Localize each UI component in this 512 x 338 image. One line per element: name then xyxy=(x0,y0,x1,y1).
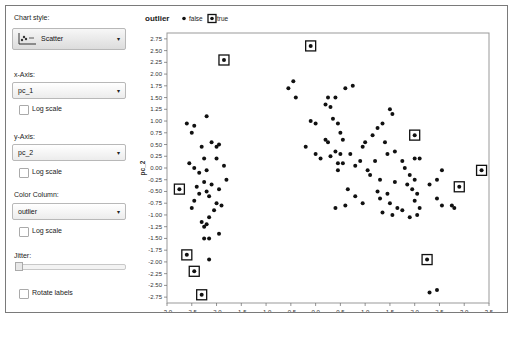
y-tick-label: 0.50 xyxy=(150,142,162,148)
data-point xyxy=(413,178,417,182)
y-axis-title: pc_2 xyxy=(139,160,147,175)
data-point xyxy=(371,133,375,137)
data-point xyxy=(435,288,439,292)
data-point xyxy=(400,208,404,212)
data-point xyxy=(210,182,214,186)
data-point xyxy=(393,150,397,154)
data-point xyxy=(207,194,211,198)
data-point xyxy=(413,157,417,161)
outlier-point xyxy=(177,187,181,191)
data-point xyxy=(435,178,439,182)
data-point xyxy=(333,150,337,154)
y-tick-label: -2.75 xyxy=(148,294,162,300)
data-point xyxy=(351,84,355,88)
data-point xyxy=(224,178,228,182)
y-tick-label: 0.25 xyxy=(150,153,162,159)
data-point xyxy=(217,232,221,236)
data-point xyxy=(205,114,209,118)
data-point xyxy=(408,215,412,219)
y-tick-label: -2.50 xyxy=(148,282,162,288)
data-point xyxy=(331,117,335,121)
data-point xyxy=(190,131,194,135)
data-point xyxy=(390,213,394,217)
outlier-point xyxy=(200,293,204,297)
data-point xyxy=(338,152,342,156)
x-tick-label: 2.0 xyxy=(411,309,420,312)
data-point xyxy=(192,124,196,128)
data-point xyxy=(361,145,365,149)
data-point xyxy=(343,86,347,90)
outlier-point xyxy=(413,133,417,137)
data-point xyxy=(219,204,223,208)
data-point xyxy=(319,157,323,161)
data-point xyxy=(324,103,328,107)
data-point xyxy=(385,152,389,156)
y-tick-label: -2.00 xyxy=(148,259,162,265)
data-point xyxy=(361,201,365,205)
y-tick-label: -0.50 xyxy=(148,188,162,194)
outlier-point xyxy=(309,44,313,48)
x-tick-label: 1.0 xyxy=(361,309,370,312)
data-point xyxy=(413,199,417,203)
x-tick-label: 2.5 xyxy=(435,309,444,312)
data-point xyxy=(403,166,407,170)
data-point xyxy=(363,140,367,144)
data-point xyxy=(202,236,206,240)
data-point xyxy=(380,211,384,215)
data-point xyxy=(192,199,196,203)
data-point xyxy=(314,152,318,156)
data-point xyxy=(388,201,392,205)
data-point xyxy=(195,185,199,189)
data-point xyxy=(341,138,345,142)
data-point xyxy=(366,168,370,172)
data-point xyxy=(376,126,380,130)
y-tick-label: -1.00 xyxy=(148,212,162,218)
y-tick-label: 1.50 xyxy=(150,95,162,101)
x-tick-label: -2.5 xyxy=(187,309,198,312)
data-point xyxy=(187,161,191,165)
y-tick-label: -2.25 xyxy=(148,271,162,277)
data-point xyxy=(309,119,313,123)
data-point xyxy=(207,258,211,262)
outlier-point xyxy=(185,253,189,257)
chart-view-frame: Chart style: Scatter ▾ x-Axis: pc_1 ▾ Lo… xyxy=(5,5,508,313)
data-point xyxy=(376,189,380,193)
data-point xyxy=(395,206,399,210)
data-point xyxy=(207,236,211,240)
data-point xyxy=(415,213,419,217)
data-point xyxy=(202,180,206,184)
data-point xyxy=(190,206,194,210)
data-point xyxy=(328,154,332,158)
y-tick-label: 0.75 xyxy=(150,130,162,136)
data-point xyxy=(415,192,419,196)
plot-area xyxy=(167,33,489,303)
y-tick-label: -1.25 xyxy=(148,224,162,230)
scatter-chart: outlierfalsetrue-3.0-2.5-2.0-1.5-1.0-0.5… xyxy=(6,6,507,312)
x-tick-label: -3.0 xyxy=(162,309,173,312)
x-tick-label: -0.5 xyxy=(286,309,297,312)
y-tick-label: -1.50 xyxy=(148,235,162,241)
data-point xyxy=(405,182,409,186)
legend-title: outlier xyxy=(145,14,169,23)
data-point xyxy=(358,159,362,163)
data-point xyxy=(408,173,412,177)
data-point xyxy=(400,159,404,163)
data-point xyxy=(192,166,196,170)
data-point xyxy=(440,204,444,208)
data-point xyxy=(452,206,456,210)
x-tick-label: 3.5 xyxy=(485,309,494,312)
data-point xyxy=(418,206,422,210)
data-point xyxy=(294,96,298,100)
data-point xyxy=(336,121,340,125)
data-point xyxy=(336,168,340,172)
data-point xyxy=(390,112,394,116)
data-point xyxy=(205,168,209,172)
y-tick-label: -1.75 xyxy=(148,247,162,253)
data-point xyxy=(215,157,219,161)
data-point xyxy=(197,192,201,196)
data-point xyxy=(373,159,377,163)
data-point xyxy=(383,140,387,144)
data-point xyxy=(338,131,342,135)
data-point xyxy=(343,204,347,208)
y-tick-label: 1.25 xyxy=(150,106,162,112)
